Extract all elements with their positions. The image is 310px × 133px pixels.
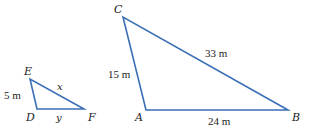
- vertex-label-b: B: [291, 111, 300, 124]
- vertex-label-f: F: [87, 111, 96, 124]
- vertex-label-d: D: [25, 111, 35, 124]
- similar-triangles-diagram: E D F 5 m x y C A B 15 m 33 m 24 m: [0, 0, 310, 133]
- triangle-abc-outline: [123, 17, 288, 110]
- vertex-label-e: E: [23, 65, 32, 78]
- side-label-df: y: [55, 112, 62, 123]
- triangle-def: E D F 5 m x y: [4, 65, 96, 124]
- side-label-bc: 33 m: [205, 47, 228, 59]
- vertex-label-c: C: [114, 3, 123, 16]
- triangle-abc: C A B 15 m 33 m 24 m: [108, 3, 300, 127]
- side-label-ef: x: [57, 81, 63, 92]
- side-label-ab: 24 m: [208, 115, 231, 127]
- side-label-ac: 15 m: [108, 68, 131, 80]
- vertex-label-a: A: [134, 111, 143, 124]
- side-label-de: 5 m: [4, 89, 21, 101]
